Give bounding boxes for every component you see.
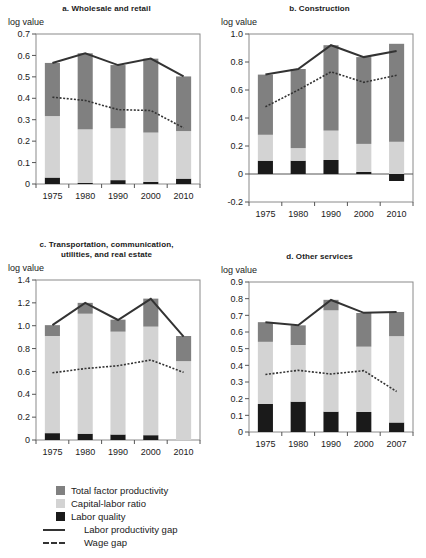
panel-b-svg: -0.200.20.40.60.81.019751980199020002010 — [213, 28, 426, 218]
bar-segment-capital-labor-ratio — [176, 131, 191, 179]
bar-segment-capital-labor-ratio — [291, 345, 306, 402]
bar-segment-total-factor-productivity — [258, 322, 273, 342]
legend-solid-line-icon — [56, 525, 78, 534]
bar-segment-capital-labor-ratio — [356, 144, 371, 172]
y-tick-label: 0.4 — [17, 389, 30, 399]
x-tick-label: 1980 — [288, 209, 308, 219]
panel-b-title: b. Construction — [213, 4, 426, 14]
bar-segment-labor-quality — [258, 161, 273, 174]
y-tick-label: 0.3 — [17, 115, 30, 125]
legend-label-wage: Wage gap — [84, 536, 127, 549]
bar-segment-total-factor-productivity — [291, 69, 306, 148]
y-tick-label: 1.0 — [17, 321, 30, 331]
y-tick-label: 1.4 — [17, 275, 30, 285]
x-tick-label: 1980 — [75, 191, 95, 201]
y-tick-label: 0.9 — [230, 277, 243, 287]
panel-d-title: d. Other services — [213, 252, 426, 262]
bar-segment-capital-labor-ratio — [389, 336, 404, 422]
y-tick-label: 1.2 — [17, 298, 30, 308]
panel-b-axis-label: log value — [221, 17, 426, 28]
x-tick-label: 2010 — [174, 447, 194, 457]
bar-segment-total-factor-productivity — [356, 313, 371, 347]
x-tick-label: 1990 — [108, 447, 128, 457]
x-tick-label: 1990 — [321, 209, 341, 219]
x-tick-label: 2000 — [141, 191, 161, 201]
panel-c-plot: 00.20.40.60.81.01.21.4197519801990200020… — [0, 274, 213, 459]
bar-segment-total-factor-productivity — [78, 303, 93, 314]
y-tick-label: 0.5 — [230, 344, 243, 354]
legend-label-lpg: Labor productivity gap — [84, 523, 177, 536]
bar-segment-labor-quality — [389, 423, 404, 433]
legend: Total factor productivity Capital-labor … — [56, 484, 177, 549]
panel-b-plot: -0.200.20.40.60.81.019751980199020002010 — [213, 28, 426, 218]
x-tick-label: 1975 — [255, 209, 275, 219]
bar-segment-total-factor-productivity — [291, 325, 306, 345]
panel-c-svg: 00.20.40.60.81.01.21.4197519801990200020… — [0, 274, 213, 459]
bar-segment-labor-quality — [143, 182, 158, 184]
bar-segment-total-factor-productivity — [323, 45, 338, 130]
x-tick-label: 2010 — [174, 191, 194, 201]
bar-segment-labor-quality — [78, 434, 93, 440]
bar-segment-labor-quality — [323, 160, 338, 174]
panel-transportation-communication-utilities-real-estate: c. Transportation, communication, utilit… — [0, 240, 213, 459]
bar-segment-labor-quality — [258, 404, 273, 432]
legend-label-tfp: Total factor productivity — [71, 484, 168, 497]
panel-construction: b. Construction log value -0.200.20.40.6… — [213, 4, 426, 218]
bar-segment-capital-labor-ratio — [258, 135, 273, 161]
panel-d-axis-label: log value — [221, 265, 426, 276]
panel-other-services: d. Other services log value 00.10.20.30.… — [213, 252, 426, 451]
bar-segment-labor-quality — [45, 178, 60, 184]
bar-segment-total-factor-productivity — [78, 53, 93, 129]
y-tick-label: 0.6 — [230, 85, 243, 95]
bar-segment-labor-quality — [110, 180, 125, 184]
bar-segment-total-factor-productivity — [45, 63, 60, 116]
y-tick-label: 0 — [238, 169, 243, 179]
x-tick-label: 1990 — [321, 439, 341, 449]
bar-segment-labor-quality — [291, 161, 306, 174]
bar-segment-total-factor-productivity — [176, 76, 191, 131]
bar-segment-labor-quality — [110, 435, 125, 440]
bar-segment-capital-labor-ratio — [323, 310, 338, 411]
bar-segment-capital-labor-ratio — [110, 332, 125, 435]
panel-a-svg: 00.10.20.30.40.50.60.7197519801990200020… — [0, 28, 213, 203]
bar-segment-capital-labor-ratio — [78, 129, 93, 183]
bar-segment-capital-labor-ratio — [45, 336, 60, 433]
panel-c-title-line2: utilities, and real estate — [61, 250, 152, 259]
y-tick-label: 0 — [25, 435, 30, 445]
bar-segment-total-factor-productivity — [176, 336, 191, 361]
bar-segment-total-factor-productivity — [45, 325, 60, 336]
legend-label-klr: Capital-labor ratio — [71, 497, 146, 510]
x-tick-label: 2000 — [354, 209, 374, 219]
y-tick-label: 0 — [238, 427, 243, 437]
legend-item-labor-quality: Labor quality — [56, 510, 177, 523]
bar-segment-labor-quality — [45, 433, 60, 440]
bar-segment-labor-quality — [389, 174, 404, 181]
bar-segment-capital-labor-ratio — [78, 314, 93, 434]
bar-segment-total-factor-productivity — [143, 59, 158, 133]
bar-segment-capital-labor-ratio — [110, 128, 125, 180]
panel-a-axis-label: log value — [8, 17, 213, 28]
panel-a-plot: 00.10.20.30.40.50.60.7197519801990200020… — [0, 28, 213, 203]
x-tick-label: 2007 — [387, 439, 407, 449]
x-tick-label: 1980 — [75, 447, 95, 457]
bar-segment-total-factor-productivity — [110, 65, 125, 128]
y-tick-label: 0.8 — [17, 344, 30, 354]
bar-segment-capital-labor-ratio — [143, 133, 158, 182]
bar-segment-labor-quality — [356, 172, 371, 174]
panel-d-plot: 00.10.20.30.40.50.60.70.80.9197519801990… — [213, 276, 426, 451]
x-tick-label: 1975 — [255, 439, 275, 449]
legend-item-wage-gap: Wage gap — [56, 536, 177, 549]
legend-label-lq: Labor quality — [71, 510, 125, 523]
y-tick-label: 0.6 — [230, 327, 243, 337]
bar-segment-capital-labor-ratio — [323, 131, 338, 160]
x-tick-label: 1975 — [42, 191, 62, 201]
y-tick-label: 0.3 — [230, 377, 243, 387]
bar-segment-total-factor-productivity — [389, 312, 404, 336]
y-tick-label: 0 — [25, 179, 30, 189]
legend-item-labor-productivity-gap: Labor productivity gap — [56, 523, 177, 536]
y-tick-label: 0.7 — [230, 311, 243, 321]
legend-item-total-factor-productivity: Total factor productivity — [56, 484, 177, 497]
y-tick-label: 0.1 — [17, 158, 30, 168]
panel-c-title-line1: c. Transportation, communication, — [40, 240, 174, 249]
bar-segment-labor-quality — [291, 402, 306, 432]
